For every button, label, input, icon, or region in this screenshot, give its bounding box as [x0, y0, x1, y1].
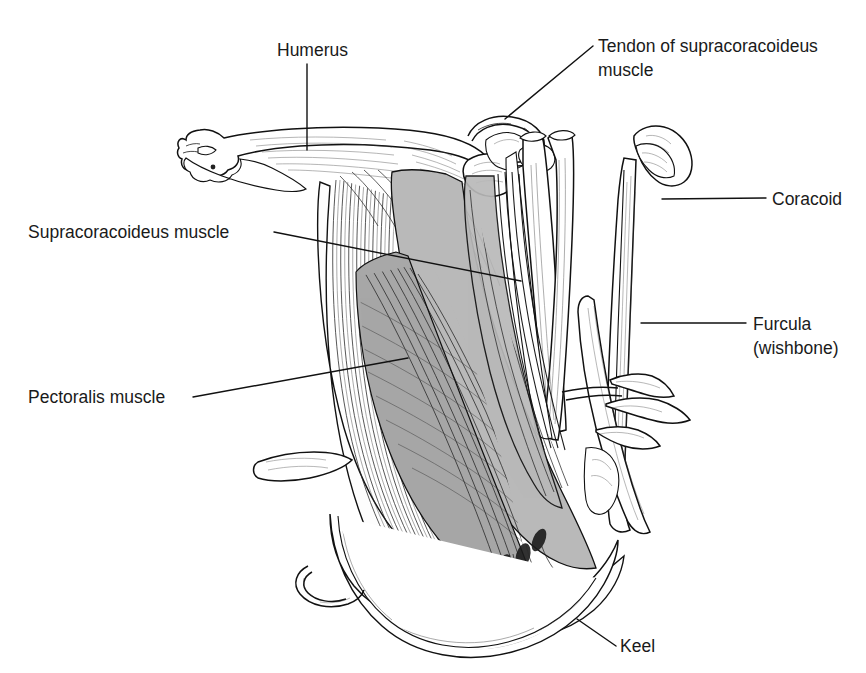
label-tendon-line2: muscle — [598, 60, 653, 80]
anatomy-figure: Humerus Tendon of supracoracoideus muscl… — [0, 0, 866, 673]
anatomy-illustration: Humerus Tendon of supracoracoideus muscl… — [0, 0, 866, 673]
label-supracoracoideus: Supracoracoideus muscle — [28, 222, 229, 242]
label-tendon-line1: Tendon of supracoracoideus — [598, 36, 818, 56]
label-keel: Keel — [620, 636, 655, 656]
label-coracoid: Coracoid — [772, 189, 842, 209]
leader-coracoid — [662, 198, 766, 199]
label-furcula-line1: Furcula — [753, 314, 812, 334]
label-pectoralis: Pectoralis muscle — [28, 387, 165, 407]
label-furcula-line2: (wishbone) — [753, 338, 839, 358]
label-humerus: Humerus — [277, 40, 348, 60]
